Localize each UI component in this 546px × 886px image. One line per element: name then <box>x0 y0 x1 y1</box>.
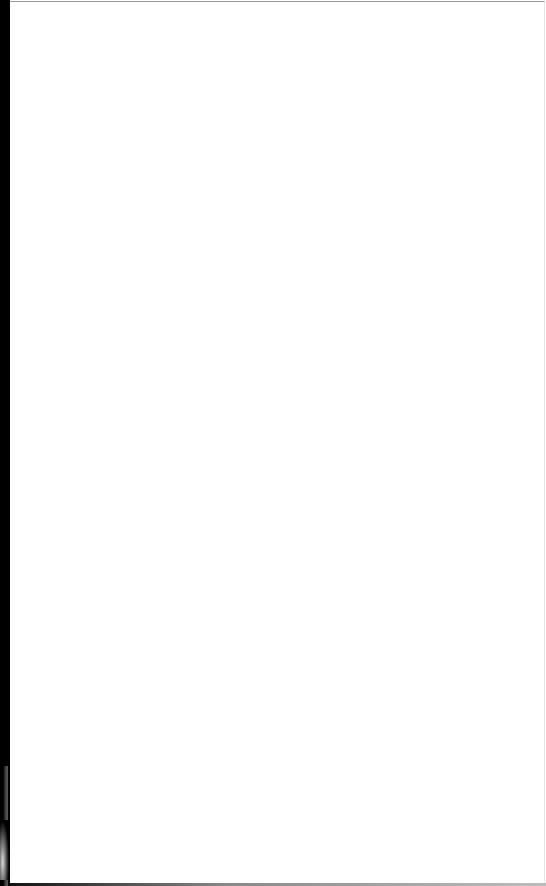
scan-artifact <box>0 820 9 880</box>
blank-page <box>10 1 545 883</box>
scan-edge-left <box>0 0 10 886</box>
